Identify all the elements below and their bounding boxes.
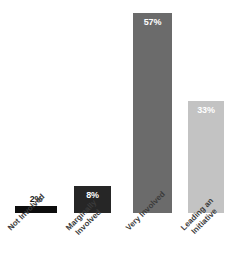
bar-group-leading-an-initiative: 33% (188, 101, 224, 213)
bar-very-involved[interactable] (133, 13, 172, 213)
bar-value-very-involved: 57% (133, 17, 172, 27)
bar-group-very-involved: 57% (133, 13, 172, 213)
bar-value-leading-an-initiative: 33% (188, 105, 224, 115)
category-axis: Not Involved Marginally Involved Very In… (0, 213, 231, 266)
plot-area: 2% 8% 57% 33% (0, 0, 231, 213)
bar-chart: 2% 8% 57% 33% Not Involved Marginally In… (0, 0, 231, 266)
bar-leading-an-initiative[interactable] (188, 101, 224, 213)
